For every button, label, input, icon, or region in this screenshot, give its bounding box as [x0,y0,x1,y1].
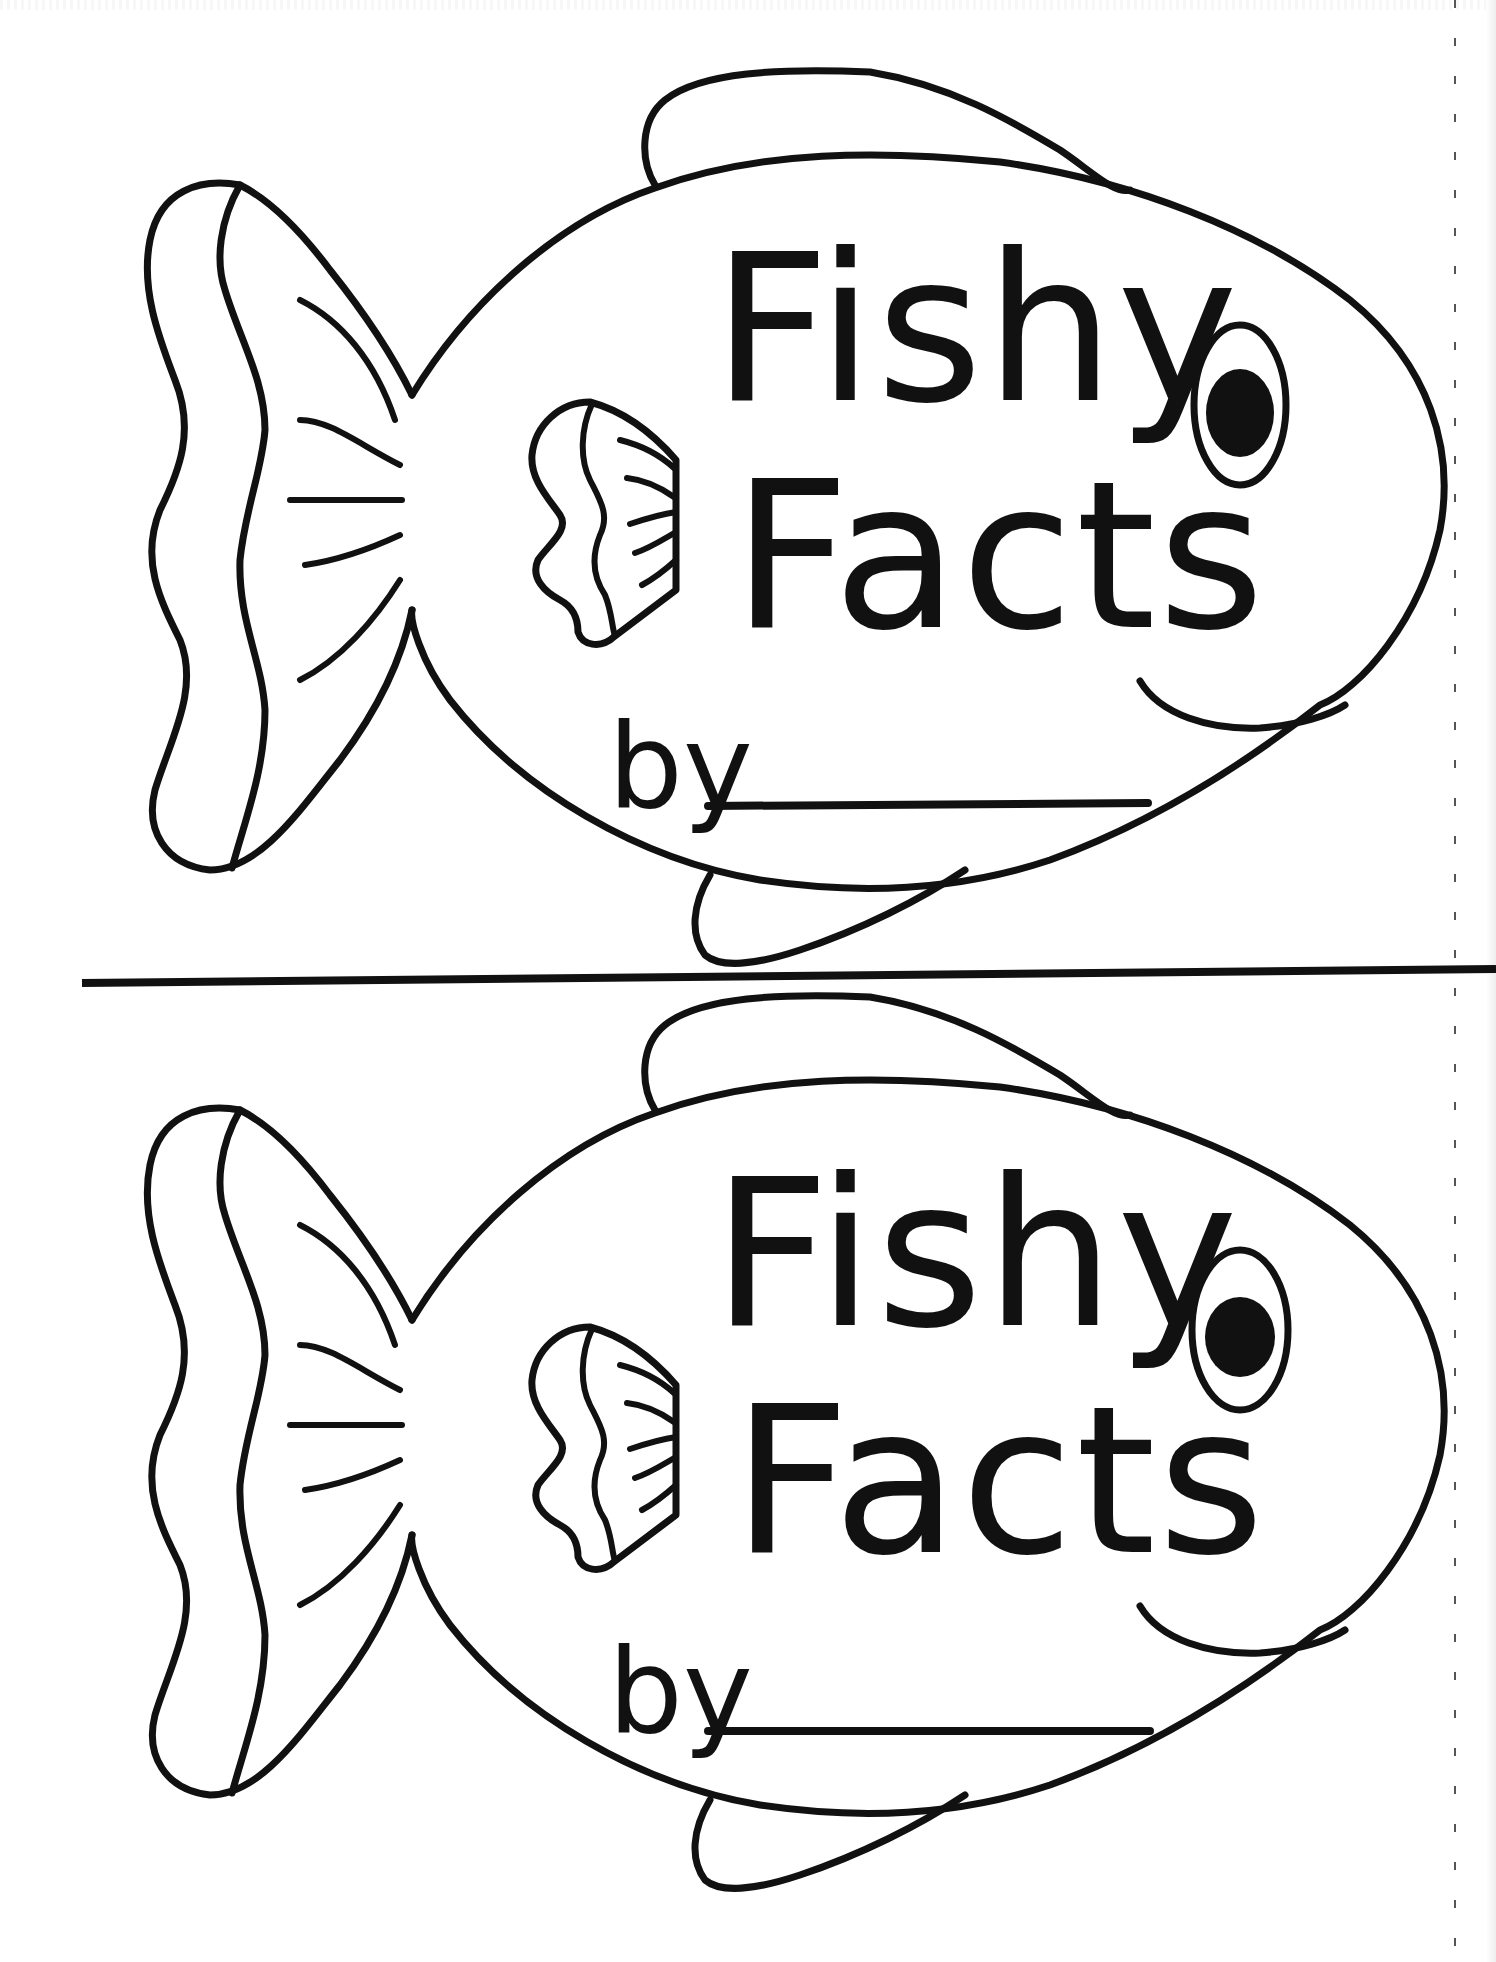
pectoral-ray [635,1457,676,1478]
fish-cover-1: Fishy Facts by [147,71,1444,964]
tail-ray [300,1345,400,1390]
byline-label: by [608,698,753,836]
tail-inner-band [220,185,265,868]
cover-title-line-2: Facts [732,1362,1267,1600]
cover-title-line-1: Fishy [712,210,1240,448]
pectoral-ray [627,478,674,497]
fish-cover-2: Fishy Facts by [147,996,1444,1889]
tail-ray [300,1505,400,1605]
tail-ray [300,580,400,680]
pectoral-ray [635,532,676,553]
worksheet-artwork: Fishy Facts by [0,0,1496,1962]
pectoral-fin-inner [583,404,615,636]
cut-divider-line [82,969,1496,983]
pectoral-ray [630,512,676,524]
smile-mouth-icon [1140,681,1345,728]
pectoral-ray [642,560,676,585]
tail-fin-icon [147,1108,412,1795]
pectoral-ray [627,1403,674,1422]
tail-ray [300,420,400,465]
cover-title-line-1: Fishy [712,1135,1240,1373]
tail-ray [300,1225,395,1345]
tail-ray [305,535,400,565]
smile-mouth-icon [1140,1606,1345,1653]
cover-title-line-2: Facts [732,437,1267,675]
tail-ray [300,300,395,420]
pectoral-fin-inner [583,1329,615,1561]
byline-label: by [608,1623,753,1761]
tail-ray [305,1460,400,1490]
tail-fin-icon [147,183,412,870]
worksheet-page: Fishy Facts by [0,0,1496,1962]
author-name-blank[interactable] [708,803,1148,806]
tail-inner-band [220,1110,265,1793]
pectoral-ray [642,1485,676,1510]
pectoral-ray [630,1437,676,1449]
